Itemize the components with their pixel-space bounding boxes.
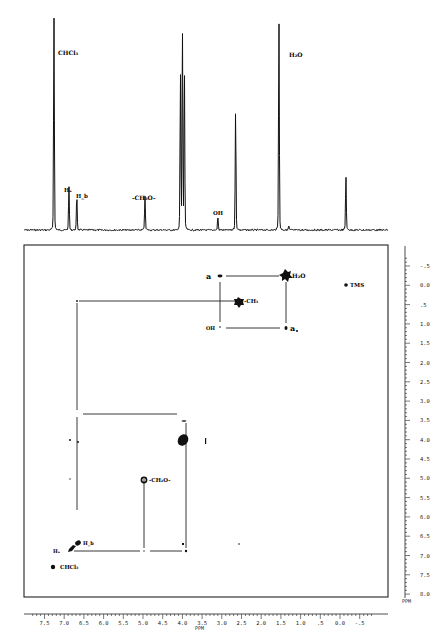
y-tick-label: 6.0 [420, 514, 430, 520]
y-axis-unit: PPM [402, 598, 411, 604]
y-tick-label: 1.0 [420, 321, 430, 327]
x-tick-label: 6.5 [79, 620, 89, 626]
cross-peak-b [185, 550, 187, 552]
cross-peak-c [238, 543, 240, 545]
label-chcl3-top: CHCl₃ [58, 49, 78, 56]
x-tick-label: -.5 [355, 620, 365, 626]
y-tick-label: 7.5 [420, 572, 430, 578]
x-tick-label: 7.0 [59, 620, 69, 626]
nmr-figure: CHCl₃ H₂O Hₐ H_b -CH₂O- OH [0, 0, 446, 639]
y-tick-label: 4.0 [420, 437, 430, 443]
x-tick-label: .5 [317, 620, 324, 626]
y-tick-label: 5.0 [420, 475, 430, 481]
peak-oh [219, 326, 221, 328]
y-tick-label: 0.0 [420, 282, 430, 288]
label-oh-plot: OH [206, 325, 215, 331]
label-oh-top: OH [213, 210, 223, 216]
y-tick-label: 7.0 [420, 553, 430, 559]
peak-hb [74, 540, 81, 547]
label-a-lower: a [290, 323, 295, 333]
label-ch2o-plot: -CH₂O- [149, 477, 171, 483]
x-tick-label: 4.5 [158, 620, 168, 626]
peak-left-dot3 [69, 478, 70, 479]
y-tick-label: 1.5 [420, 340, 430, 346]
peak-a-upper [218, 275, 223, 278]
x-tick-label: 5.0 [138, 620, 148, 626]
y-tick-label: 2.0 [420, 360, 430, 366]
y-tick-label: .5 [420, 302, 427, 308]
y-tick-label: 2.5 [420, 379, 430, 385]
x-axis: 7.57.06.56.05.55.04.54.03.53.02.52.01.51… [24, 614, 388, 631]
peak-chcl3 [51, 565, 55, 569]
contour-peaks [51, 269, 348, 569]
cross-peak-d [143, 550, 144, 551]
peak-4ppm [175, 432, 190, 448]
x-tick-label: 3.0 [217, 620, 227, 626]
y-tick-label: 4.5 [420, 456, 430, 462]
label-hb-top: H_b [76, 193, 88, 200]
y-tick-label: 3.0 [420, 398, 430, 404]
label-chcl3-plot: CHCl₃ [60, 564, 79, 570]
y-tick-label: 6.5 [420, 533, 430, 539]
x-tick-label: 1.5 [276, 620, 286, 626]
y-tick-label: 8.0 [420, 591, 430, 597]
label-h2o-plot: H₂O [292, 272, 306, 279]
peak-ch3 [234, 297, 244, 308]
peak-h2o [279, 269, 293, 282]
label-ha-plot: Hₐ [53, 548, 61, 554]
x-tick-label: 7.5 [40, 620, 50, 626]
peak-a-lower [285, 326, 288, 330]
x-tick-label: 2.0 [256, 620, 266, 626]
x-tick-label: 0.0 [335, 620, 345, 626]
y-tick-label: 3.5 [420, 417, 430, 423]
peak-dash [182, 420, 187, 422]
label-hb-plot: H_b [83, 540, 94, 547]
cross-peak-ch3 [76, 300, 78, 302]
2d-cosy-plot: TMS a H₂O -CH₃ OH a -CH₂O- H_b Hₐ CHCl₃ [24, 245, 388, 597]
label-ch3: -CH₃ [244, 298, 259, 304]
label-h2o-top: H₂O [289, 51, 303, 58]
x-axis-unit: PPM [195, 625, 204, 631]
x-tick-label: 1.0 [296, 620, 306, 626]
cross-peak-a [182, 543, 184, 545]
peak-4ppm-tick [205, 438, 206, 444]
peak-left-dot2 [77, 441, 79, 443]
x-tick-label: 6.0 [99, 620, 109, 626]
peak-left-dot [69, 439, 71, 441]
peak-tms [344, 283, 348, 287]
1d-spectrum: CHCl₃ H₂O Hₐ H_b -CH₂O- OH [24, 18, 388, 231]
y-tick-label: 5.5 [420, 495, 430, 501]
label-a-upper: a [206, 271, 211, 281]
connectivity-lines [74, 276, 286, 551]
x-tick-label: 2.5 [237, 620, 247, 626]
label-ha-top: Hₐ [64, 187, 72, 193]
label-tms: TMS [350, 282, 364, 288]
x-tick-label: 4.0 [177, 620, 187, 626]
y-tick-label: -.5 [420, 263, 430, 269]
label-ch2o-top: -CH₂O- [132, 194, 156, 201]
peak-small [296, 330, 298, 332]
y-axis: -.50.0.51.01.52.02.53.03.54.04.55.05.56.… [402, 246, 430, 604]
x-tick-label: 5.5 [118, 620, 128, 626]
